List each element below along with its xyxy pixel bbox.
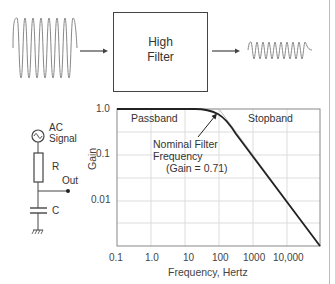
x-tick-10000: 10,000 bbox=[273, 252, 304, 263]
x-tick-0-1: 0.1 bbox=[109, 252, 123, 263]
x-tick-1000: 1000 bbox=[243, 252, 265, 263]
y-tick-0-01: 0.01 bbox=[91, 194, 110, 205]
annotation-line1: Nominal Filter bbox=[153, 138, 218, 150]
x-axis-label: Frequency, Hertz bbox=[168, 266, 248, 278]
stopband-label: Stopband bbox=[248, 112, 293, 124]
y-tick-1: 1.0 bbox=[96, 103, 110, 114]
passband-label: Passband bbox=[131, 112, 178, 124]
annotation-line3: (Gain = 0.71) bbox=[166, 162, 228, 174]
y-tick-0-1: 0.1 bbox=[96, 148, 110, 159]
x-tick-1: 1.0 bbox=[145, 252, 159, 263]
x-tick-100: 100 bbox=[212, 252, 229, 263]
annotation-line2: Frequency bbox=[153, 150, 203, 162]
x-tick-10: 10 bbox=[183, 252, 194, 263]
y-axis-label: Gain bbox=[86, 148, 98, 170]
